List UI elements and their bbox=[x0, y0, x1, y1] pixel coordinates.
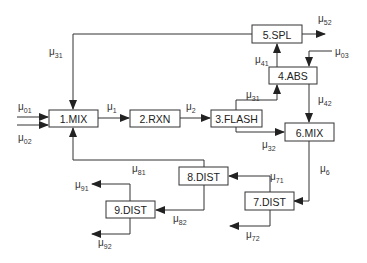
stream-mu32 bbox=[236, 127, 284, 132]
stream-label-mu91: μ91 bbox=[75, 179, 89, 192]
stream-label-mu31_recycle: μ31 bbox=[49, 46, 63, 59]
unit-6-mix: 6.MIX bbox=[285, 123, 334, 141]
stream-label-mu81: μ81 bbox=[132, 163, 146, 176]
process-flow-diagram: 1.MIX2.RXN3.FLASH4.ABS5.SPL6.MIX7.DIST8.… bbox=[0, 0, 367, 263]
unit-label: 2.RXN bbox=[140, 113, 171, 125]
unit-label: 1.MIX bbox=[60, 113, 87, 125]
unit-label: 8.DIST bbox=[187, 171, 220, 183]
stream-mu71 bbox=[229, 176, 270, 192]
stream-label-mu02: μ02 bbox=[18, 132, 32, 145]
unit-3-flash: 3.FLASH bbox=[211, 110, 262, 127]
stream-mu81 bbox=[73, 128, 204, 167]
unit-label: 9.DIST bbox=[114, 204, 147, 216]
stream-mu91 bbox=[92, 184, 130, 201]
stream-mu72 bbox=[230, 210, 270, 226]
stream-mu92 bbox=[92, 218, 130, 234]
stream-mu6 bbox=[294, 141, 309, 201]
stream-label-mu2: μ2 bbox=[186, 101, 196, 114]
stream-label-mu82: μ82 bbox=[173, 213, 187, 226]
unit-9-dist: 9.DIST bbox=[106, 201, 155, 218]
stream-label-mu1: μ1 bbox=[107, 101, 117, 114]
unit-1-mix: 1.MIX bbox=[49, 110, 98, 127]
stream-label-mu03: μ03 bbox=[335, 46, 349, 59]
stream-label-mu72: μ72 bbox=[246, 229, 260, 242]
stream-label-mu52: μ52 bbox=[318, 13, 332, 26]
stream-label-mu42: μ42 bbox=[318, 94, 332, 107]
units-layer: 1.MIX2.RXN3.FLASH4.ABS5.SPL6.MIX7.DIST8.… bbox=[49, 25, 334, 218]
unit-8-dist: 8.DIST bbox=[179, 167, 228, 185]
stream-label-mu01: μ01 bbox=[18, 101, 32, 114]
stream-label-mu32: μ32 bbox=[262, 139, 276, 152]
unit-4-abs: 4.ABS bbox=[269, 67, 317, 84]
stream-label-mu41: μ41 bbox=[255, 54, 269, 67]
unit-label: 3.FLASH bbox=[215, 113, 258, 125]
unit-label: 7.DIST bbox=[253, 196, 286, 208]
unit-5-spl: 5.SPL bbox=[252, 25, 302, 43]
stream-label-mu6: μ6 bbox=[320, 163, 330, 176]
stream-mu03 bbox=[309, 51, 332, 66]
stream-mu31_recycle bbox=[73, 34, 252, 109]
unit-2-rxn: 2.RXN bbox=[130, 110, 180, 127]
stream-label-mu71: μ71 bbox=[270, 171, 284, 184]
unit-label: 6.MIX bbox=[296, 127, 323, 139]
unit-label: 5.SPL bbox=[263, 29, 292, 41]
unit-label: 4.ABS bbox=[278, 70, 308, 82]
unit-7-dist: 7.DIST bbox=[245, 192, 294, 210]
stream-label-mu92: μ92 bbox=[98, 237, 112, 250]
stream-mu82 bbox=[156, 185, 204, 210]
